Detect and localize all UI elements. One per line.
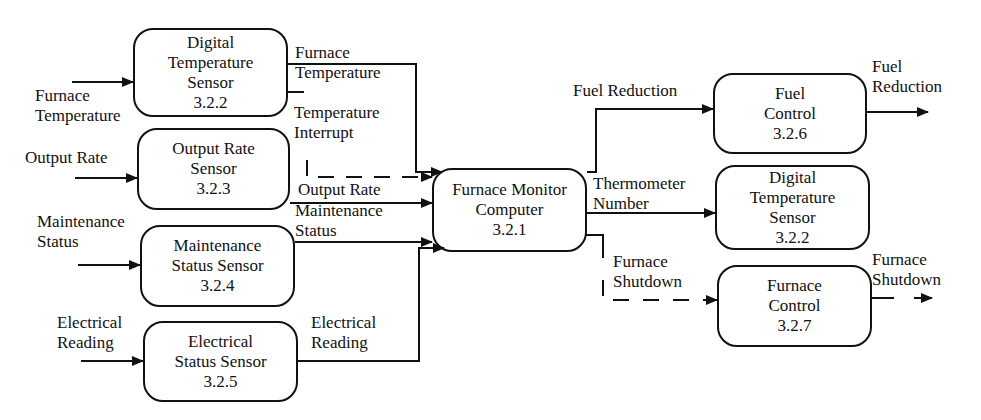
process-title: Computer [476,200,544,220]
label-furnace-temperature: FurnaceTemperature [295,43,381,83]
process-title: Maintenance [174,236,262,256]
process-maintenance-status-sensor: Maintenance Status Sensor 3.2.4 [140,225,295,307]
process-title: Control [769,296,821,316]
process-title: Fuel [775,84,805,104]
label-fuel-reduction: Fuel Reduction [573,81,677,101]
process-number: 3.2.3 [197,179,231,199]
label-thermometer-number: ThermometerNumber [593,174,686,214]
process-title: Furnace [767,276,822,296]
process-digital-temperature-sensor-right: Digital Temperature Sensor 3.2.2 [715,165,870,250]
process-number: 3.2.6 [773,124,807,144]
process-title: Status Sensor [171,256,263,276]
process-number: 3.2.7 [778,316,812,336]
process-title: Temperature [168,53,254,73]
process-title: Digital [769,168,816,188]
flow-temp-interrupt [307,160,432,177]
label-in-electrical-reading: ElectricalReading [57,313,122,353]
process-title: Sensor [769,208,815,228]
label-in-output-rate: Output Rate [25,148,108,168]
process-title: Digital [187,33,234,53]
process-title: Electrical [188,332,253,352]
process-title: Sensor [190,159,236,179]
label-in-maintenance-status: MaintenanceStatus [37,212,125,252]
label-furnace-shutdown: FurnaceShutdown [613,252,682,292]
label-output-rate: Output Rate [298,180,381,200]
process-fuel-control: Fuel Control 3.2.6 [713,73,867,154]
process-number: 3.2.2 [776,228,810,248]
process-number: 3.2.2 [194,93,228,113]
flow-fuel-reduction [587,109,713,172]
process-furnace-control: Furnace Control 3.2.7 [717,265,872,347]
process-title: Temperature [750,188,836,208]
process-furnace-monitor-computer: Furnace Monitor Computer 3.2.1 [432,168,587,252]
process-number: 3.2.4 [201,276,235,296]
process-digital-temperature-sensor-left: Digital Temperature Sensor 3.2.2 [133,28,288,117]
process-title: Sensor [187,73,233,93]
label-temperature-interrupt: TemperatureInterrupt [294,103,380,143]
label-in-furnace-temperature: FurnaceTemperature [35,86,121,126]
label-out-fuel-reduction: FuelReduction [872,57,942,97]
label-maintenance-status: MaintenanceStatus [295,201,383,241]
process-title: Furnace Monitor [452,180,567,200]
process-electrical-status-sensor: Electrical Status Sensor 3.2.5 [143,321,298,402]
process-number: 3.2.1 [493,220,527,240]
process-output-rate-sensor: Output Rate Sensor 3.2.3 [137,128,290,210]
process-number: 3.2.5 [204,372,238,392]
label-electrical-reading: ElectricalReading [311,313,376,353]
process-title: Output Rate [172,139,255,159]
process-title: Status Sensor [174,352,266,372]
label-out-furnace-shutdown: FurnaceShutdown [872,250,941,290]
process-title: Control [764,104,816,124]
